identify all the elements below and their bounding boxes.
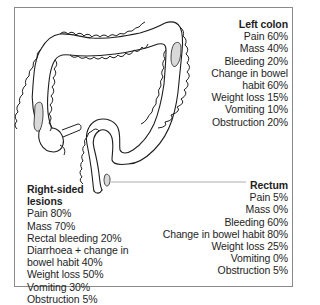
left-colon-item: Pain 60% [211,30,288,42]
left-colon-label: Left colon Pain 60% Mass 40% Bleeding 20… [211,18,288,128]
right-sided-item: Diarrhoea + change in [27,244,129,256]
right-sided-item: Rectal bleeding 20% [27,232,129,244]
right-sided-item: Mass 70% [27,220,129,232]
left-colon-item: Mass 40% [211,42,288,54]
right-sided-item: bowel habit 40% [27,256,129,268]
left-colon-item: Weight loss 15% [211,91,288,103]
lesion-left-colon [171,42,181,66]
left-colon-item: Bleeding 20% [211,55,288,67]
left-colon-title: Left colon [211,18,288,30]
rectum-item: Weight loss 25% [163,240,288,252]
right-sided-title: Right-sided [27,183,129,195]
left-colon-item: Obstruction 20% [211,116,288,128]
left-colon-item: Vomiting 10% [211,103,288,115]
right-sided-item: Obstruction 5% [27,293,129,305]
rectum-item: Obstruction 5% [163,264,288,276]
rectum-title: Rectum [163,179,288,191]
lesion-right-colon [34,102,43,131]
left-colon-item: Change in bowel [211,67,288,79]
right-sided-item: Vomiting 30% [27,281,129,293]
rectum-item: Pain 5% [163,191,288,203]
rectum-item: Change in bowel habit 80% [163,228,288,240]
rectum-item: Vomiting 0% [163,252,288,264]
right-sided-title: lesions [27,195,129,207]
colon-outline [32,22,182,193]
rectum-label: Rectum Pain 5% Mass 0% Bleeding 60% Chan… [163,179,288,277]
right-sided-label: Right-sided lesions Pain 80% Mass 70% Re… [27,183,129,305]
right-sided-item: Pain 80% [27,207,129,219]
rectum-item: Bleeding 60% [163,216,288,228]
left-colon-item: habit 60% [211,79,288,91]
rectum-item: Mass 0% [163,203,288,215]
lesion-markers [34,42,181,186]
right-sided-item: Weight loss 50% [27,268,129,280]
